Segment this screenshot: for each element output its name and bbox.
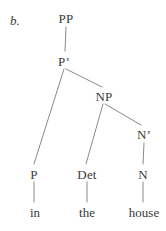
tree-edge-nbar-n: [143, 143, 144, 164]
syntax-tree-figure: b. PPP’NPN’PDetN inthehouse: [0, 0, 166, 231]
tree-leaf-in: in: [30, 206, 40, 219]
tree-leaf-the: the: [79, 206, 95, 219]
tree-node-np: NP: [95, 90, 112, 103]
tree-edge-pbar-p: [34, 69, 64, 164]
tree-edge-np-nbar: [105, 104, 141, 125]
tree-node-n: N: [138, 168, 148, 181]
tree-node-nbar: N’: [137, 128, 151, 141]
tree-edge-pp-pbar: [65, 27, 66, 51]
tree-node-det: Det: [77, 168, 96, 181]
tree-edge-pbar-np: [66, 69, 102, 87]
tree-node-pp: PP: [59, 12, 74, 25]
tree-edge-np-det: [86, 104, 103, 164]
tree-node-p: P: [30, 168, 37, 181]
tree-branch-lines: [0, 0, 166, 231]
tree-leaf-house: house: [129, 206, 159, 219]
tree-node-pbar: P’: [58, 55, 70, 68]
